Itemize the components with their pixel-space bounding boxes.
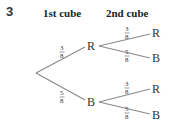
node-l2-RB: B	[152, 51, 160, 65]
tree-diagram: R B 3 8 5 8 R B R B 3 8 5 8 3 8 5 8	[0, 0, 172, 131]
svg-text:3: 3	[60, 44, 64, 52]
svg-text:5: 5	[125, 105, 129, 113]
fraction-l2-BR: 3 8	[125, 80, 130, 96]
svg-text:5: 5	[60, 89, 64, 97]
node-l1-R: R	[87, 39, 95, 53]
svg-text:3: 3	[125, 25, 129, 33]
svg-text:8: 8	[125, 56, 129, 64]
fraction-l2-BB: 5 8	[125, 105, 130, 121]
svg-text:8: 8	[60, 97, 64, 105]
svg-text:5: 5	[125, 48, 129, 56]
node-l1-B: B	[87, 95, 95, 109]
fraction-l2-RB: 5 8	[125, 48, 130, 64]
fraction-l1-B: 5 8	[60, 89, 65, 105]
svg-text:8: 8	[60, 52, 64, 60]
svg-text:3: 3	[125, 80, 129, 88]
svg-text:8: 8	[125, 33, 129, 41]
svg-text:8: 8	[125, 113, 129, 121]
node-l2-RR: R	[152, 26, 160, 40]
node-l2-BR: R	[152, 82, 160, 96]
node-l2-BB: B	[152, 108, 160, 122]
svg-text:8: 8	[125, 88, 129, 96]
